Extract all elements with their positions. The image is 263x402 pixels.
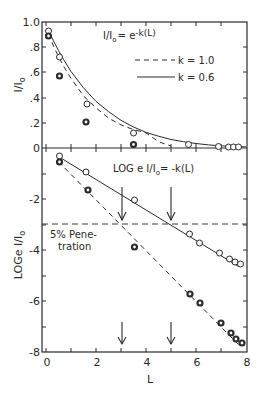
svg-text:-4: -4: [29, 244, 40, 257]
svg-text:6: 6: [194, 356, 201, 369]
upper-y-axis-label: I/Io: [12, 77, 27, 92]
legend-label-k06: k = 0.6: [178, 72, 214, 83]
svg-text:.4: .4: [30, 92, 41, 105]
x-tick-labels: 0 2 4 6 8: [44, 356, 251, 369]
upper-points-k1: [46, 34, 136, 148]
lower-panel-title: LOG e I/Io= -k(L): [113, 163, 194, 177]
upper-y-tick-labels: 1.0 .8 .6 .4 .2 0: [23, 16, 41, 155]
upper-panel-title: I/Io= e-k(L): [103, 28, 156, 44]
upper-curve-k06: [49, 31, 247, 147]
arrow-down-icon-l3-lower: [118, 322, 126, 344]
svg-text:-6: -6: [29, 295, 40, 308]
arrow-down-icon-l5-upper: [167, 187, 175, 220]
arrow-down-icon-l3-upper: [118, 187, 126, 220]
svg-text:LOGe I/Io: LOGe I/Io: [12, 231, 27, 279]
annotation-line1: 5% Pene-: [50, 229, 97, 240]
annotation-line2: tration: [58, 241, 91, 252]
svg-text:I/Io: I/Io: [12, 77, 27, 92]
svg-text:-8: -8: [29, 346, 40, 359]
lower-y-axis-label: LOGe I/Io: [12, 231, 27, 279]
svg-text:0: 0: [44, 356, 51, 369]
lower-y-tick-labels: -2 -4 -6 -8: [29, 193, 40, 359]
legend: k = 1.0 k = 0.6: [135, 55, 214, 83]
svg-text:.6: .6: [30, 66, 41, 79]
svg-text:4: 4: [144, 356, 151, 369]
svg-text:2: 2: [94, 356, 101, 369]
svg-text:0: 0: [33, 142, 40, 155]
upper-curve-k1: [49, 34, 172, 146]
upper-y-ticks: [42, 47, 247, 123]
x-axis-label: L: [147, 373, 154, 386]
svg-text:-2: -2: [29, 193, 40, 206]
legend-label-k1: k = 1.0: [178, 55, 214, 66]
svg-text:1.0: 1.0: [23, 16, 41, 29]
figure: 1.0 .8 .6 .4 .2 0 -2 -4 -6 -8 0 2 4 6 8 …: [0, 0, 263, 402]
plot-frame: [42, 22, 247, 352]
svg-text:.8: .8: [30, 41, 41, 54]
svg-text:.2: .2: [30, 117, 41, 130]
svg-text:8: 8: [244, 356, 251, 369]
arrow-down-icon-l5-lower: [167, 322, 175, 344]
